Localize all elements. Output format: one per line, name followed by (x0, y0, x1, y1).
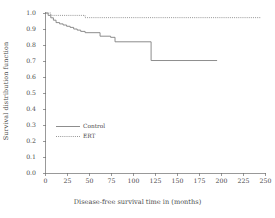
x-axis-title: Disease-free survival time in (months) (0, 198, 275, 206)
survival-chart-figure: Survival distribution function 0.00.10.2… (0, 0, 275, 218)
legend-label-control: Control (83, 124, 105, 130)
legend: ControlERT (0, 0, 275, 218)
legend-label-ert: ERT (83, 134, 95, 140)
